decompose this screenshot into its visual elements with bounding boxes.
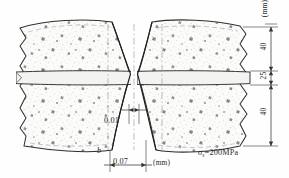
- stress-value: =200MPa: [205, 148, 239, 157]
- width-symbol-label: b: [97, 146, 101, 155]
- figure-canvas: (mm) 40 25 40 0.01 0.07 (mm) b σs=200MPa: [0, 0, 289, 178]
- dimension-label-upper-40: 40: [259, 33, 268, 61]
- dimension-label-plate-25: 25: [259, 62, 268, 90]
- diagram-vector: [0, 0, 289, 178]
- dimension-label-lower-40: 40: [259, 98, 268, 126]
- central-plate-layer: [16, 71, 250, 85]
- vertical-unit-label: (mm): [260, 0, 269, 23]
- left-specimen-half: [10, 14, 140, 160]
- stress-annotation: σs=200MPa: [198, 148, 238, 158]
- dimension-label-neck-offset: 0.07: [113, 157, 128, 166]
- dimension-label-neck-gap: 0.01: [104, 116, 119, 125]
- horizontal-unit-label: (mm): [153, 158, 170, 167]
